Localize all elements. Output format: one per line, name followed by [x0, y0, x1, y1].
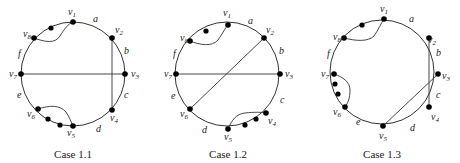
extra-vertex-dot	[242, 122, 247, 127]
vertex-label-v7: v7	[321, 68, 329, 81]
arc-label-a: a	[93, 13, 98, 24]
diagram-canvas: v1v2v3v4v5v6v7v8abcdef v1v2v3v4v5v6v7v8a…	[0, 0, 460, 163]
vertex-v7	[173, 71, 179, 77]
vertex-label-v6: v6	[333, 106, 341, 119]
vertex-label-v4: v4	[268, 115, 276, 128]
vertex-label-v1: v1	[380, 3, 388, 16]
vertex-v2	[261, 35, 267, 41]
chord-v3-v5	[383, 74, 438, 126]
arc-label-c: c	[124, 89, 129, 100]
vertex-v3	[277, 71, 283, 77]
arc-label-b: b	[436, 47, 441, 58]
curve-v8-v1	[34, 22, 73, 42]
vertex-label-v8: v8	[23, 28, 31, 41]
vertex-label-v6: v6	[27, 108, 35, 121]
extra-vertex-dot	[45, 116, 50, 121]
vertex-label-v8: v8	[180, 32, 188, 45]
vertex-v7	[18, 71, 24, 77]
vertex-label-v4: v4	[431, 111, 439, 124]
vertex-label-v5: v5	[379, 130, 387, 143]
vertex-label-v3: v3	[285, 68, 293, 81]
arc-label-c: c	[436, 89, 441, 100]
arc-label-e: e	[17, 89, 22, 100]
caption-case-1-1: Case 1.1	[54, 148, 92, 160]
vertex-v2	[109, 35, 115, 41]
vertex-label-v8: v8	[333, 31, 341, 44]
arc-label-a: a	[248, 15, 253, 26]
vertex-v3	[435, 71, 441, 77]
vertex-v8	[187, 38, 193, 44]
vertex-v1	[225, 22, 231, 28]
extra-vertex-dot	[253, 116, 258, 121]
curve-v7-v6	[334, 74, 350, 107]
vertex-label-v3: v3	[131, 68, 139, 81]
arc-label-d: d	[410, 122, 416, 133]
arc-label-b: b	[279, 45, 284, 56]
extra-vertex-dot	[48, 25, 53, 30]
case-1-1-diagram: v1v2v3v4v5v6v7v8abcdef	[9, 6, 139, 140]
vertex-label-v3: v3	[442, 70, 450, 83]
vertex-v1	[70, 19, 76, 25]
vertex-label-v5: v5	[67, 127, 75, 140]
case-1-3-diagram: v1v2v3v4v5v6v7v8abcdef	[321, 3, 450, 143]
vertex-v7	[331, 71, 337, 77]
vertex-label-v5: v5	[224, 131, 232, 144]
arc-label-f: f	[18, 48, 22, 59]
arc-label-e: e	[171, 90, 176, 101]
vertex-v8	[341, 35, 347, 41]
vertex-v3	[122, 71, 128, 77]
arc-label-c: c	[280, 94, 285, 105]
arc-label-b: b	[124, 45, 129, 56]
vertex-v6	[187, 106, 193, 112]
caption-case-1-2: Case 1.2	[209, 148, 247, 160]
vertex-v4	[426, 104, 432, 110]
extra-vertex-dot	[57, 122, 62, 127]
vertex-label-v7: v7	[164, 68, 172, 81]
vertex-label-v7: v7	[9, 68, 17, 81]
chord-v2-v6	[190, 38, 264, 109]
arc-label-f: f	[327, 48, 331, 59]
vertex-label-v2: v2	[266, 24, 274, 37]
arc-label-e: e	[356, 116, 361, 127]
caption-case-1-3: Case 1.3	[363, 148, 401, 160]
curve-v8-v1	[344, 19, 384, 40]
extra-vertex-dot	[359, 22, 364, 27]
vertex-label-v6: v6	[180, 108, 188, 121]
vertex-v6	[35, 106, 41, 112]
curve-v8-v1	[190, 25, 228, 45]
arc-label-a: a	[409, 13, 414, 24]
extra-vertex-dot	[332, 81, 337, 86]
vertex-v5	[380, 123, 386, 129]
vertex-label-v4: v4	[110, 112, 118, 125]
arc-label-f: f	[173, 48, 177, 59]
vertex-v6	[342, 104, 348, 110]
arc-label-d: d	[202, 124, 208, 135]
vertex-v8	[31, 35, 37, 41]
case-1-2-diagram: v1v2v3v4v5v6v7v8abcdef	[164, 7, 293, 144]
arc-label-d: d	[96, 123, 102, 134]
vertex-label-v1: v1	[223, 7, 231, 20]
vertex-v1	[381, 16, 387, 22]
extra-vertex-dot	[335, 91, 340, 96]
vertex-label-v2: v2	[115, 24, 123, 37]
vertex-label-v1: v1	[68, 6, 76, 19]
extra-vertex-dot	[203, 28, 208, 33]
